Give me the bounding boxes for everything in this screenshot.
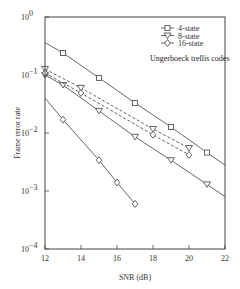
- diamond-marker: [150, 131, 156, 138]
- legend-item: 16-state: [161, 39, 204, 48]
- square-marker: [97, 75, 102, 80]
- y-tick-exponent: −2: [29, 125, 38, 134]
- y-tick-exponent: −4: [29, 241, 38, 250]
- y-tick-exponent: 0: [29, 9, 33, 18]
- x-tick-label: 14: [77, 254, 85, 263]
- square-marker: [61, 50, 66, 55]
- legend-label: 16-state: [178, 39, 204, 48]
- y-tick-label: 10: [21, 245, 29, 254]
- legend: 4-state8-state16-state: [161, 24, 204, 48]
- series-line: [45, 98, 135, 204]
- frame-error-rate-chart: 12141618202210010−110−210−310−4 4-state8…: [0, 0, 240, 289]
- diamond-icon: [165, 40, 171, 47]
- x-tick-label: 12: [41, 254, 49, 263]
- x-tick-label: 20: [185, 254, 193, 263]
- diamond-marker: [78, 89, 84, 96]
- diamond-marker: [186, 151, 192, 158]
- y-tick-exponent: −1: [29, 67, 38, 76]
- series-8-state-dashed-: [42, 66, 193, 151]
- y-tick-label: 10: [21, 129, 29, 138]
- x-tick-label: 22: [221, 254, 229, 263]
- y-tick-label: 10: [21, 187, 29, 196]
- x-tick-label: 16: [113, 254, 121, 263]
- plot-series: [42, 43, 226, 208]
- plot-frame: [45, 17, 225, 249]
- square-marker: [133, 100, 138, 105]
- series-16-state: [45, 98, 138, 207]
- triangle-down-marker: [132, 134, 139, 140]
- y-tick-label: 10: [21, 71, 29, 80]
- annotation-text: Ungerboeck trellis codes: [150, 54, 230, 63]
- series-8-state: [42, 73, 226, 197]
- series-line: [45, 69, 189, 148]
- square-marker: [169, 124, 174, 129]
- series-line: [45, 73, 189, 155]
- square-icon: [165, 26, 170, 31]
- y-axis-title: Frame error rate: [13, 107, 22, 159]
- y-tick-exponent: −3: [29, 183, 38, 192]
- square-marker: [205, 150, 210, 155]
- x-tick-label: 18: [149, 254, 157, 263]
- y-tick-label: 10: [21, 13, 29, 22]
- x-axis-title: SNR (dB): [119, 273, 152, 282]
- triangle-down-marker: [186, 146, 193, 152]
